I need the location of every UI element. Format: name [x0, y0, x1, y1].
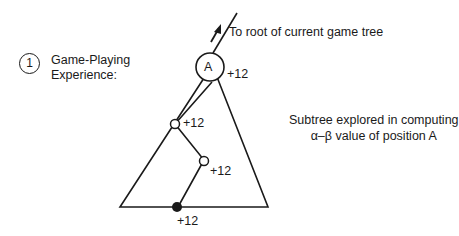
step-number-badge: 1	[19, 53, 40, 74]
section-title: Game-Playing Experience:	[51, 53, 130, 83]
root-node-label: A	[204, 60, 212, 74]
filled-leaf-node	[172, 202, 182, 212]
title-line-2: Experience:	[51, 68, 130, 83]
subtree-triangle	[120, 77, 268, 207]
arrow-up-icon	[214, 24, 221, 34]
principal-variation-path	[175, 82, 212, 207]
root-node-value: +12	[227, 67, 248, 81]
subtree-annotation: Subtree explored in computing α–β value …	[289, 112, 459, 144]
title-line-1: Game-Playing	[51, 53, 130, 68]
leaf-node-value: +12	[177, 214, 198, 228]
subtree-annotation-line-1: Subtree explored in computing	[289, 112, 459, 128]
root-annotation: To root of current game tree	[229, 25, 383, 39]
open-node-1	[171, 120, 180, 129]
node-1-value: +12	[183, 116, 204, 130]
subtree-annotation-line-2: α–β value of position A	[289, 128, 459, 144]
node-2-value: +12	[210, 164, 231, 178]
open-node-2	[200, 157, 209, 166]
